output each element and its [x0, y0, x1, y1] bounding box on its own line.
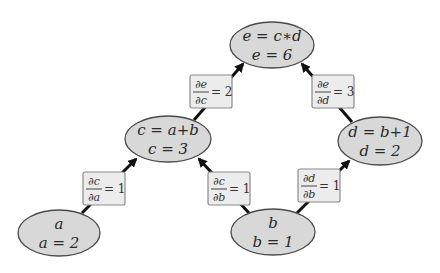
edge-label-dd-db: ∂d ∂b = 1: [298, 169, 341, 202]
node-e: e = c∗d e = 6: [230, 22, 314, 68]
numerator: ∂e: [195, 78, 208, 91]
denominator: ∂a: [88, 191, 100, 204]
node-expression: b: [268, 214, 278, 232]
numerator: ∂c: [88, 175, 100, 188]
node-expression: a: [55, 215, 64, 233]
node-a: a a = 2: [18, 210, 100, 256]
node-value: e = 6: [252, 46, 293, 64]
node-c: c = a+b c = 3: [125, 116, 211, 162]
edge-label-dc-db: ∂c ∂b = 1: [208, 172, 251, 205]
numerator: ∂e: [317, 78, 330, 91]
partial-value: = 1: [319, 179, 341, 193]
denominator: ∂c: [195, 94, 207, 107]
partial-value: = 1: [104, 182, 126, 196]
partial-value: = 2: [211, 85, 233, 99]
computational-graph: ∂e ∂c = 2 ∂e ∂d = 3 ∂c ∂a = 1 ∂c ∂b = 1 …: [0, 0, 440, 273]
edge-label-de-dd: ∂e ∂d = 3: [312, 75, 355, 108]
node-expression: d = b+1: [348, 123, 411, 141]
node-expression: e = c∗d: [242, 27, 301, 45]
denominator: ∂b: [213, 191, 226, 204]
node-d: d = b+1 d = 2: [338, 117, 422, 165]
node-value: b = 1: [252, 233, 293, 251]
node-expression: c = a+b: [137, 121, 199, 139]
denominator: ∂b: [303, 188, 316, 201]
edge-label-de-dc: ∂e ∂c = 2: [190, 75, 233, 108]
partial-value: = 1: [229, 182, 251, 196]
numerator: ∂c: [213, 175, 225, 188]
node-b: b b = 1: [231, 209, 315, 255]
node-value: a = 2: [39, 234, 80, 252]
partial-value: = 3: [333, 85, 355, 99]
numerator: ∂d: [303, 172, 316, 185]
node-value: d = 2: [359, 142, 400, 160]
denominator: ∂d: [317, 94, 330, 107]
node-value: c = 3: [148, 140, 188, 158]
edge-label-dc-da: ∂c ∂a = 1: [83, 172, 126, 205]
